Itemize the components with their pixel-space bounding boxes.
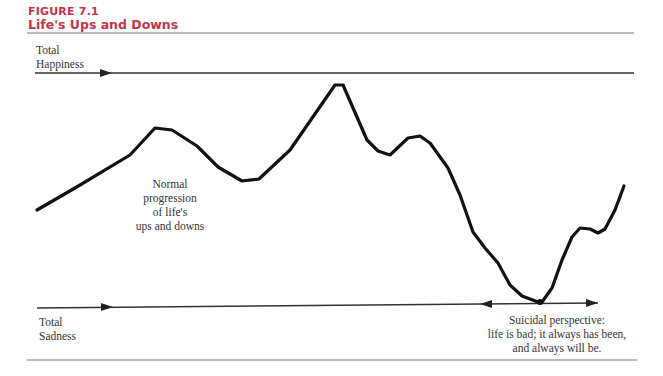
suicidal-left-arrow-icon bbox=[480, 300, 492, 308]
total-happiness-label: Total Happiness bbox=[36, 43, 84, 71]
total-sadness-label: Total Sadness bbox=[39, 315, 76, 343]
label-line: Suicidal perspective: bbox=[468, 313, 646, 327]
suicidal-perspective-label: Suicidal perspective: life is bad; it al… bbox=[468, 313, 646, 355]
label-line: progression bbox=[120, 191, 220, 205]
label-line: Sadness bbox=[39, 329, 76, 343]
label-line: life is bad; it always has been, bbox=[468, 327, 646, 341]
label-line: ups and downs bbox=[120, 219, 220, 233]
label-line: Normal bbox=[120, 177, 220, 191]
label-line: Total bbox=[36, 43, 84, 57]
total-sadness-line bbox=[37, 303, 598, 308]
happiness-arrow-icon bbox=[100, 69, 112, 77]
label-line: of life's bbox=[120, 205, 220, 219]
label-line: and always will be. bbox=[468, 341, 646, 355]
lowest-point-marker bbox=[537, 299, 543, 305]
label-line: Total bbox=[39, 315, 76, 329]
normal-progression-label: Normal progression of life's ups and dow… bbox=[120, 177, 220, 233]
suicidal-right-arrow-icon bbox=[586, 299, 598, 307]
sadness-arrow-icon bbox=[101, 303, 113, 311]
label-line: Happiness bbox=[36, 57, 84, 71]
